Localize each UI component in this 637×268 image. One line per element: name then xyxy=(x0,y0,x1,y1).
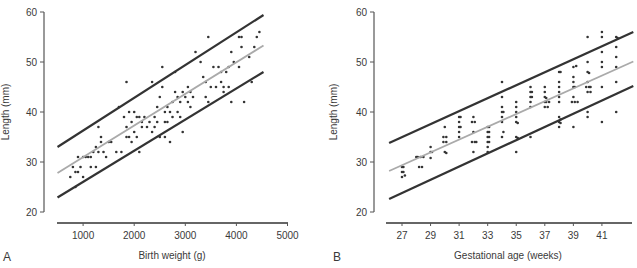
data-point xyxy=(486,146,489,149)
data-point xyxy=(164,136,167,139)
data-point xyxy=(544,86,547,89)
data-point xyxy=(123,116,126,119)
data-point xyxy=(544,106,547,109)
data-point xyxy=(207,101,210,104)
y-axis-label-a: Length (mm) xyxy=(0,84,11,141)
data-point xyxy=(515,101,518,104)
y-ticks-a: 2030405060 xyxy=(26,7,44,218)
data-point xyxy=(421,166,424,169)
data-point xyxy=(601,36,604,39)
data-point xyxy=(586,91,589,94)
data-point xyxy=(601,31,604,34)
data-point xyxy=(588,72,591,75)
data-point xyxy=(529,86,532,89)
regression-lines-a xyxy=(58,15,264,198)
chart-a: 2030405060 10002000300040005000 Length (… xyxy=(0,7,299,264)
lower-limit-line xyxy=(58,72,264,198)
data-point xyxy=(210,86,213,89)
data-point xyxy=(169,111,172,114)
data-point xyxy=(138,151,141,154)
data-point xyxy=(572,96,575,99)
data-point xyxy=(572,76,575,79)
data-point xyxy=(74,171,77,174)
data-point xyxy=(69,176,72,179)
x-tick-label: 1000 xyxy=(72,230,95,241)
data-point xyxy=(558,116,561,119)
data-point xyxy=(531,96,534,99)
data-point xyxy=(215,86,218,89)
x-ticks-a: 10002000300040005000 xyxy=(72,223,299,241)
data-point xyxy=(130,141,133,144)
data-point xyxy=(558,81,561,84)
data-point xyxy=(100,136,103,139)
data-point xyxy=(418,166,421,169)
data-point xyxy=(615,46,618,49)
data-point xyxy=(531,91,534,94)
y-tick-label: 50 xyxy=(26,57,38,68)
data-point xyxy=(429,146,432,149)
y-tick-label: 30 xyxy=(356,157,368,168)
data-point xyxy=(174,91,177,94)
data-point xyxy=(501,136,504,139)
data-point xyxy=(501,96,504,99)
data-point xyxy=(153,116,156,119)
y-tick-label: 20 xyxy=(356,207,368,218)
data-point xyxy=(128,111,131,114)
x-tick-label: 3000 xyxy=(174,230,197,241)
data-point xyxy=(572,126,575,129)
data-point xyxy=(176,111,179,114)
data-point xyxy=(572,81,575,84)
data-point xyxy=(459,126,462,129)
data-point xyxy=(194,51,197,54)
data-point xyxy=(585,86,588,89)
data-point xyxy=(82,176,85,179)
x-tick-label: 35 xyxy=(511,230,523,241)
data-point xyxy=(458,121,461,124)
data-point xyxy=(601,86,604,89)
data-point xyxy=(559,71,562,74)
y-tick-label: 30 xyxy=(26,157,38,168)
figure: 2030405060 10002000300040005000 Length (… xyxy=(0,0,637,268)
data-point xyxy=(258,31,261,34)
data-point xyxy=(238,66,241,69)
data-point xyxy=(458,136,461,139)
data-point xyxy=(187,101,190,104)
x-tick-label: 41 xyxy=(596,230,608,241)
panel-label-b: B xyxy=(333,250,341,264)
data-point xyxy=(100,141,103,144)
data-point xyxy=(179,101,182,104)
scatter-points-a xyxy=(69,31,261,189)
data-point xyxy=(184,96,187,99)
data-point xyxy=(444,126,447,129)
data-point xyxy=(248,56,251,59)
x-tick-label: 33 xyxy=(482,230,494,241)
data-point xyxy=(474,121,477,124)
data-point xyxy=(615,111,618,114)
data-point xyxy=(151,81,154,84)
data-point xyxy=(471,121,474,124)
data-point xyxy=(558,91,561,94)
data-point xyxy=(442,136,445,139)
data-point xyxy=(181,91,184,94)
x-tick-label: 2000 xyxy=(123,230,146,241)
data-point xyxy=(615,56,618,59)
data-point xyxy=(125,81,128,84)
data-point xyxy=(571,101,574,104)
data-point xyxy=(153,126,156,129)
data-point xyxy=(442,141,445,144)
x-tick-label: 5000 xyxy=(276,230,299,241)
y-ticks-b: 2030405060 xyxy=(356,7,374,218)
lower-limit-line xyxy=(389,86,633,199)
data-point xyxy=(559,122,562,125)
regression-line xyxy=(58,46,264,174)
upper-limit-line xyxy=(58,15,264,147)
data-point xyxy=(472,151,475,154)
data-point xyxy=(558,101,561,104)
data-point xyxy=(601,66,604,69)
data-point xyxy=(181,131,184,134)
data-point xyxy=(207,36,210,39)
y-axis-label-b: Length (mm) xyxy=(328,84,339,141)
data-point xyxy=(243,101,246,104)
data-point xyxy=(402,171,405,174)
data-point xyxy=(238,36,241,39)
